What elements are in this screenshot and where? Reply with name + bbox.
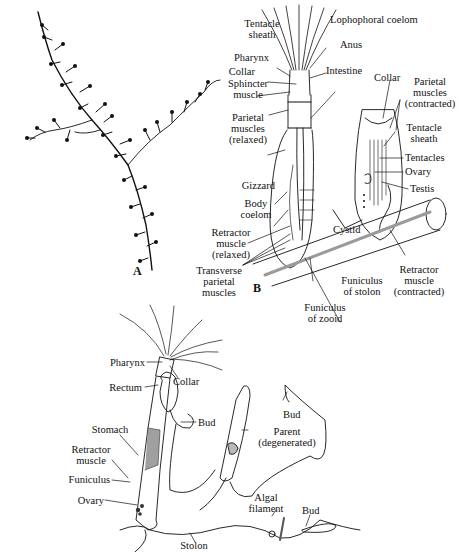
label-funiculus-c: Funiculus — [69, 474, 110, 485]
label-line: Parietal — [232, 112, 264, 123]
label-pharynx-c: Pharynx — [110, 357, 145, 368]
panel-label-a: A — [133, 264, 142, 279]
label-collar-c: Collar — [173, 376, 199, 387]
label-retractor-muscle-contracted: Retractor muscle (contracted) — [394, 264, 445, 297]
label-line: of zooid — [308, 313, 343, 324]
label-algal-filament: Algal filament — [249, 492, 284, 514]
retracted-zooid — [355, 110, 402, 240]
label-line: Algal — [254, 492, 277, 503]
label-retractor-muscle-c: Retractor muscle — [71, 444, 110, 466]
label-stolon: Stolon — [180, 540, 207, 551]
label-transverse-parietal-muscles: Transverse parietal muscles — [196, 265, 242, 298]
label-line: coelom — [241, 209, 272, 220]
label-ovary-b: Ovary — [405, 166, 431, 177]
label-bud-2: Bud — [283, 409, 301, 420]
extended-zooid — [262, 5, 336, 268]
label-line: parietal — [203, 276, 234, 287]
label-parent-degenerated: Parent (degenerated) — [258, 426, 316, 448]
label-line: muscle — [233, 89, 263, 100]
label-tentacles: Tentacles — [405, 152, 445, 163]
label-line: (degenerated) — [258, 437, 316, 448]
label-tentacle-sheath-right: Tentacle sheath — [406, 122, 441, 144]
label-bud-3: Bud — [302, 505, 320, 516]
label-line: muscle — [404, 275, 434, 286]
label-line: Tentacle — [406, 122, 441, 133]
label-tentacle-sheath: Tentacle sheath — [244, 18, 279, 40]
label-line: muscles — [231, 123, 265, 134]
label-line: (contracted) — [394, 286, 445, 297]
label-pharynx: Pharynx — [234, 52, 269, 63]
label-line: Sphincter — [228, 78, 268, 89]
label-line: muscles — [413, 87, 447, 98]
label-rectum: Rectum — [109, 382, 142, 393]
label-line: Transverse — [196, 265, 242, 276]
label-cystid: Cystid — [333, 224, 360, 235]
label-line: Retractor — [399, 264, 438, 275]
label-line: (relaxed) — [212, 249, 250, 260]
label-line: muscle — [76, 455, 106, 466]
label-anus: Anus — [340, 39, 362, 50]
label-gizzard: Gizzard — [242, 180, 275, 191]
label-bud-1: Bud — [198, 417, 216, 428]
label-line: Parietal — [414, 76, 446, 87]
label-retractor-muscle-relaxed: Retractor muscle (relaxed) — [211, 227, 250, 260]
colony-illustration — [25, 12, 220, 270]
label-line: filament — [249, 503, 284, 514]
label-line: sheath — [249, 29, 276, 40]
label-lophophoral-coelom: Lophophoral coelom — [330, 14, 418, 25]
label-line: sheath — [411, 133, 438, 144]
label-line: Retractor — [211, 227, 250, 238]
label-intestine: Intestine — [326, 65, 362, 76]
label-parietal-muscles-contracted: Parietal muscles (contracted) — [405, 76, 456, 109]
label-line: Retractor — [71, 444, 110, 455]
label-line: of stolon — [343, 286, 380, 297]
label-collar-right: Collar — [374, 72, 400, 83]
panel-label-b: B — [253, 281, 261, 296]
label-line: muscle — [216, 238, 246, 249]
single-zooid — [120, 305, 360, 552]
label-funiculus-of-zooid: Funiculus of zooid — [304, 302, 345, 324]
label-ovary-c: Ovary — [78, 495, 104, 506]
label-body-coelom: Body coelom — [241, 198, 272, 220]
label-line: (contracted) — [405, 98, 456, 109]
figure-canvas: A B Lophophoral coelom Tentacle sheath A… — [0, 0, 458, 552]
label-collar-left: Collar — [229, 66, 255, 77]
label-line: (relaxed) — [229, 134, 267, 145]
label-sphincter-muscle: Sphincter muscle — [228, 78, 268, 100]
label-funiculus-of-stolon: Funiculus of stolon — [341, 275, 382, 297]
label-line: Tentacle — [244, 18, 279, 29]
label-line: Body — [245, 198, 268, 209]
label-line: muscles — [202, 287, 236, 298]
label-line: Parent — [274, 426, 301, 437]
label-testis: Testis — [410, 183, 434, 194]
label-line: Funiculus — [341, 275, 382, 286]
label-stomach: Stomach — [92, 424, 129, 435]
label-line: Funiculus — [304, 302, 345, 313]
label-parietal-muscles-relaxed: Parietal muscles (relaxed) — [229, 112, 267, 145]
